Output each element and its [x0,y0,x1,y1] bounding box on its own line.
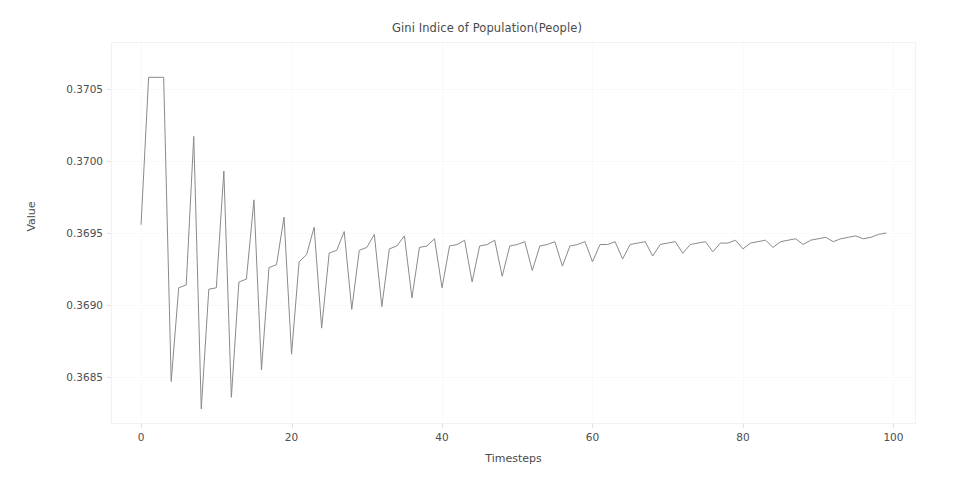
y-axis-label: Value [25,172,38,262]
x-axis-tick-mark [743,424,744,428]
plot-area [111,42,916,424]
chart-figure: Gini Indice of Population(People) 0.3685… [0,0,974,492]
y-axis-tick-mark [107,233,111,234]
y-axis-tick-label: 0.3690 [66,299,103,311]
y-axis-tick-mark [107,89,111,90]
x-axis-tick-label: 100 [883,431,903,443]
chart-title: Gini Indice of Population(People) [0,21,974,35]
y-axis-tick-mark [107,305,111,306]
x-axis-tick-mark [592,424,593,428]
x-axis-tick-label: 0 [138,431,145,443]
x-axis-tick-label: 20 [285,431,298,443]
series-line-chart [111,42,916,424]
y-axis-tick-mark [107,377,111,378]
y-axis-tick-label: 0.3700 [66,155,103,167]
y-axis-tick-label: 0.3705 [66,83,103,95]
y-axis-tick-label: 0.3685 [66,371,103,383]
x-axis-tick-label: 60 [586,431,599,443]
x-axis-tick-label: 40 [435,431,448,443]
x-axis-label: Timesteps [111,452,916,465]
x-axis-tick-mark [141,424,142,428]
x-axis-tick-labels: 020406080100 [111,431,916,447]
y-axis-tick-label: 0.3695 [66,227,103,239]
x-axis-tick-mark [893,424,894,428]
y-axis-tick-mark [107,161,111,162]
x-axis-tick-label: 80 [736,431,749,443]
series-polyline-gini-index [141,77,886,409]
x-axis-tick-mark [442,424,443,428]
y-axis-tick-labels: 0.36850.36900.36950.37000.3705 [0,42,103,424]
x-axis-tick-mark [292,424,293,428]
